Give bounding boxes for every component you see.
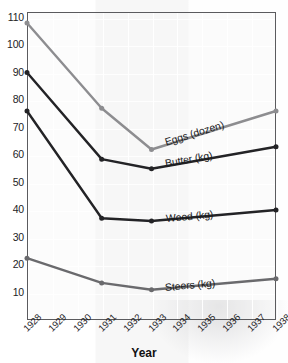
data-point-marker (99, 157, 104, 162)
data-point-marker (25, 256, 30, 261)
data-point-marker (274, 109, 279, 114)
data-point-marker (274, 276, 279, 281)
data-point-marker (149, 147, 154, 152)
data-point-marker (25, 109, 30, 114)
data-point-marker (99, 106, 104, 111)
y-axis-tick-label: 20 (0, 258, 24, 270)
y-axis-tick-label: 30 (0, 231, 24, 243)
y-axis-tick-label: 40 (0, 203, 24, 215)
y-axis-ticks: 102030405060708090100110 (0, 0, 24, 363)
y-axis-tick-label: 110 (0, 11, 24, 23)
series-line (27, 23, 276, 150)
y-axis-tick-label: 70 (0, 121, 24, 133)
y-axis-tick-label: 90 (0, 66, 24, 78)
data-point-marker (25, 70, 30, 75)
y-axis-tick-label: 80 (0, 93, 24, 105)
series-line (27, 258, 276, 290)
y-axis-tick-label: 10 (0, 286, 24, 298)
chart-series-layer (0, 0, 288, 363)
data-point-marker (149, 287, 154, 292)
y-axis-tick-label: 60 (0, 148, 24, 160)
data-point-marker (149, 166, 154, 171)
data-point-marker (99, 280, 104, 285)
line-chart-figure: 102030405060708090100110 192819291930193… (0, 0, 288, 363)
data-point-marker (274, 208, 279, 213)
x-axis-label: Year (0, 346, 288, 360)
data-point-marker (149, 219, 154, 224)
series-line (27, 73, 276, 169)
data-point-marker (25, 21, 30, 26)
data-point-marker (274, 144, 279, 149)
series-line (27, 111, 276, 221)
y-axis-tick-label: 100 (0, 38, 24, 50)
y-axis-tick-label: 50 (0, 176, 24, 188)
data-point-marker (99, 216, 104, 221)
